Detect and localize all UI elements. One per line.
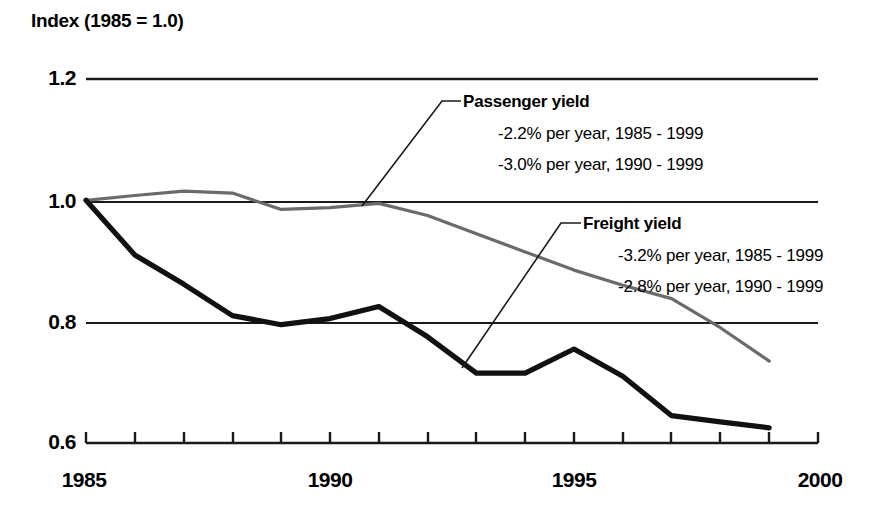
annotation-freight-line-1: -3.2% per year, 1985 - 1999 xyxy=(618,246,823,266)
annotation-freight-line-2: -2.8% per year, 1990 - 1999 xyxy=(618,277,823,297)
x-tick-label-1995: 1995 xyxy=(529,468,619,492)
y-tick-label-1-2: 1.2 xyxy=(22,66,76,90)
y-tick-label-1-0: 1.0 xyxy=(22,189,76,213)
series-line-freight-yield xyxy=(86,200,769,427)
annotation-passenger-line-1: -2.2% per year, 1985 - 1999 xyxy=(498,124,703,144)
leader-line-freight xyxy=(462,223,581,368)
chart-figure: Index (1985 = 1.0) xyxy=(0,0,883,530)
y-tick-label-0-6: 0.6 xyxy=(22,430,76,454)
annotation-title-freight: Freight yield xyxy=(583,214,681,234)
x-tick-label-2000: 2000 xyxy=(775,468,865,492)
annotation-passenger-line-2: -3.0% per year, 1990 - 1999 xyxy=(498,155,703,175)
y-tick-label-0-8: 0.8 xyxy=(22,310,76,334)
x-tick-label-1985: 1985 xyxy=(39,468,129,492)
annotation-title-passenger: Passenger yield xyxy=(463,92,589,112)
x-tick-label-1990: 1990 xyxy=(285,468,375,492)
leader-line-passenger xyxy=(362,101,461,206)
x-axis xyxy=(86,432,818,443)
